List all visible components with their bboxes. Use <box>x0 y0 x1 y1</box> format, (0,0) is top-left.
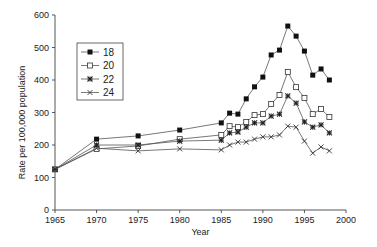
x-tick-label: 1985 <box>211 215 231 225</box>
x-tick-label: 1980 <box>170 215 190 225</box>
legend-label: 18 <box>103 47 115 58</box>
axes: 1965197019751980198519901995200001002003… <box>17 10 356 237</box>
x-tick-label: 1990 <box>253 215 273 225</box>
legend-box <box>77 43 123 100</box>
line-chart: 1965197019751980198519901995200001002003… <box>0 0 377 247</box>
legend-label: 20 <box>103 60 115 71</box>
legend-label: 24 <box>103 87 115 98</box>
y-tick-label: 500 <box>34 43 49 53</box>
x-tick-label: 1965 <box>45 215 65 225</box>
series-22 <box>53 93 332 171</box>
x-tick-label: 1970 <box>87 215 107 225</box>
y-tick-label: 0 <box>44 205 49 215</box>
y-tick-label: 300 <box>34 108 49 118</box>
x-tick-label: 1995 <box>294 215 314 225</box>
x-tick-label: 2000 <box>336 215 356 225</box>
y-axis-title: Rate per 100,000 population <box>17 66 27 180</box>
x-axis-title: Year <box>191 227 209 237</box>
x-tick-label: 1975 <box>128 215 148 225</box>
y-tick-label: 100 <box>34 173 49 183</box>
y-tick-label: 200 <box>34 140 49 150</box>
y-tick-label: 400 <box>34 75 49 85</box>
y-tick-label: 600 <box>34 10 49 20</box>
legend: 18202224 <box>77 43 123 100</box>
legend-label: 22 <box>103 74 115 85</box>
